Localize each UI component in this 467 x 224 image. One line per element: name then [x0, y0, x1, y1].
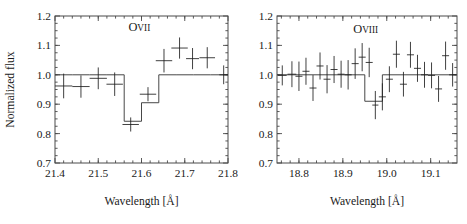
- oviii-yticklabel: 1.2: [259, 10, 274, 22]
- ovii-xticklabel: 21.7: [175, 167, 195, 179]
- oviii-data-points: [278, 41, 456, 119]
- oviii-yticklabel: 1.0: [259, 69, 274, 81]
- panel-ovii: 21.421.521.621.721.80.70.80.91.01.11.2OV…: [0, 0, 240, 224]
- ovii-yaxis-title: Normalized flux: [4, 51, 17, 128]
- ovii-species-label: OVII: [128, 20, 150, 34]
- oviii-species-label: OVIII: [353, 22, 378, 36]
- oviii-yticklabel: 1.1: [259, 39, 274, 51]
- ovii-xticklabel: 21.5: [88, 167, 108, 179]
- ovii-species-element: O: [128, 20, 137, 34]
- oviii-xaxis-title: Wavelength [Å]: [330, 194, 404, 208]
- oviii-species-element: O: [353, 22, 362, 36]
- oviii-model-step-curve: [277, 75, 457, 101]
- oviii-plot-group: 18.818.919.019.10.70.80.91.01.11.2OVIIIW…: [259, 10, 457, 208]
- oviii-plot-frame: [277, 16, 457, 163]
- ovii-yticklabel: 1.0: [37, 69, 52, 81]
- oviii-xticklabel: 18.8: [289, 167, 309, 179]
- ovii-plot-group: 21.421.521.621.721.80.70.80.91.01.11.2OV…: [4, 10, 238, 208]
- oviii-xticklabel: 18.9: [333, 167, 353, 179]
- ovii-yticklabel: 0.9: [37, 98, 52, 110]
- oviii-yticklabel: 0.9: [259, 98, 274, 110]
- oviii-species-ionstate: VIII: [362, 25, 378, 35]
- ovii-xaxis-title: Wavelength [Å]: [104, 194, 178, 208]
- ovii-yticklabel: 1.1: [37, 39, 52, 51]
- ovii-yticklabel: 1.2: [37, 10, 52, 22]
- ovii-yticklabel: 0.8: [37, 128, 52, 140]
- spectral-figure: 21.421.521.621.721.80.70.80.91.01.11.2OV…: [0, 0, 467, 224]
- panel-ovii-canvas: 21.421.521.621.721.80.70.80.91.01.11.2OV…: [0, 0, 240, 224]
- panel-oviii-canvas: 18.818.919.019.10.70.80.91.01.11.2OVIIIW…: [230, 0, 467, 224]
- oviii-xticklabel: 19.0: [377, 167, 397, 179]
- ovii-yticklabel: 0.7: [37, 157, 52, 169]
- oviii-yticklabel: 0.7: [259, 157, 274, 169]
- oviii-xticklabel: 19.1: [421, 167, 441, 179]
- panel-oviii: 18.818.919.019.10.70.80.91.01.11.2OVIIIW…: [230, 0, 467, 224]
- oviii-yticklabel: 0.8: [259, 128, 274, 140]
- ovii-xticklabel: 21.6: [132, 167, 152, 179]
- ovii-species-ionstate: VII: [137, 23, 150, 33]
